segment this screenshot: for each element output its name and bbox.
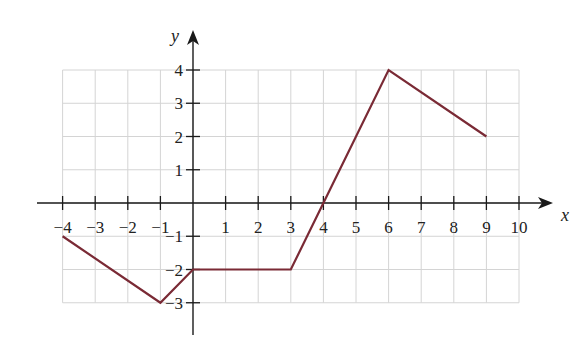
y-tick-label: 4 — [175, 61, 184, 80]
x-tick-labels: −4−3−2−112345678910 — [54, 218, 528, 237]
x-tick-label: 4 — [319, 218, 328, 237]
y-tick-label: 2 — [175, 128, 184, 147]
x-tick-label: 9 — [482, 218, 491, 237]
function-graph: −4−3−2−112345678910 −3−2−11234 x y — [0, 0, 577, 353]
x-tick-label: 1 — [221, 218, 230, 237]
function-line — [63, 70, 487, 303]
y-tick-label: 1 — [175, 161, 184, 180]
x-tick-label: 6 — [384, 218, 393, 237]
x-tick-label: 8 — [450, 218, 459, 237]
axes — [37, 30, 553, 335]
y-tick-label: 3 — [175, 94, 184, 113]
x-axis-label: x — [560, 205, 569, 225]
x-tick-label: 7 — [417, 218, 426, 237]
x-tick-label: 3 — [287, 218, 296, 237]
x-tick-label: −3 — [86, 218, 104, 237]
y-axis-label: y — [169, 26, 179, 46]
y-tick-labels: −3−2−11234 — [165, 61, 184, 313]
x-tick-label: 5 — [352, 218, 361, 237]
x-tick-label: 2 — [254, 218, 263, 237]
x-tick-label: 10 — [511, 218, 528, 237]
y-tick-label: −1 — [165, 227, 183, 246]
x-tick-label: −4 — [54, 218, 73, 237]
y-tick-label: −2 — [165, 261, 183, 280]
x-tick-label: −2 — [119, 218, 137, 237]
